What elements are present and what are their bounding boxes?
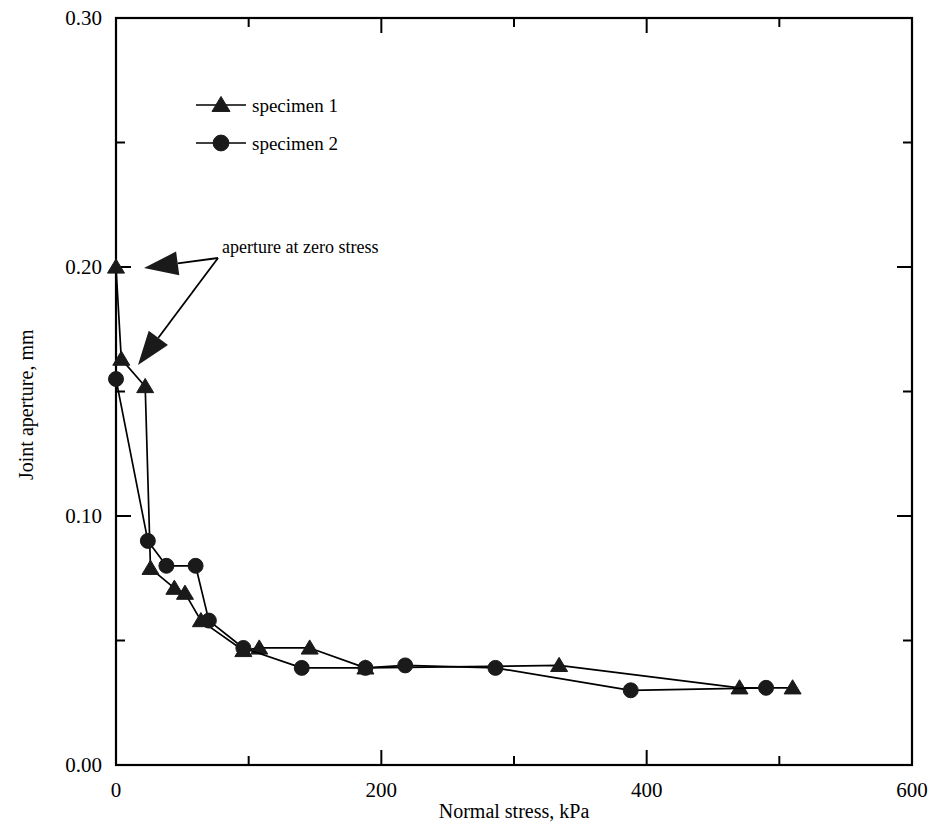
data-point-circle-icon: [294, 660, 309, 675]
data-point-circle-icon: [358, 660, 373, 675]
x-tick-label: 600: [896, 778, 928, 802]
series-1: [108, 259, 802, 694]
annotation-arrow-head: [138, 331, 168, 365]
data-point-triangle-icon: [301, 640, 318, 654]
series-2: [109, 372, 774, 698]
data-point-circle-icon: [759, 680, 774, 695]
joint-aperture-vs-normal-stress-chart: 0.000.100.200.30 0200400600 Joint apertu…: [0, 0, 936, 822]
y-tick-label: 0.00: [65, 753, 102, 777]
annotation-arrow-shaft: [178, 258, 218, 263]
data-point-circle-icon: [188, 558, 203, 573]
y-axis-ticks: [116, 18, 912, 765]
legend-label: specimen 1: [252, 95, 338, 116]
legend-entry-2: specimen 2: [196, 133, 338, 154]
x-axis-tick-labels: 0200400600: [111, 778, 928, 802]
data-point-circle-icon: [159, 558, 174, 573]
y-axis-title: Joint aperture, mm: [15, 329, 38, 480]
y-tick-label: 0.20: [65, 255, 102, 279]
x-axis-title: Normal stress, kPa: [439, 800, 590, 822]
y-axis-tick-labels: 0.000.100.200.30: [65, 6, 102, 777]
data-point-circle-icon: [236, 640, 251, 655]
series-line: [116, 379, 766, 690]
y-tick-label: 0.30: [65, 6, 102, 30]
legend-entry-1: specimen 1: [196, 95, 338, 116]
data-point-triangle-icon: [784, 680, 801, 694]
data-point-triangle-icon: [551, 657, 568, 671]
annotation-label: aperture at zero stress: [222, 237, 378, 257]
data-point-triangle-icon: [142, 560, 159, 574]
chart-legend: specimen 1specimen 2: [196, 95, 338, 154]
annotation-arrow-head: [144, 252, 179, 276]
x-tick-label: 0: [111, 778, 122, 802]
x-tick-label: 200: [366, 778, 398, 802]
data-point-circle-icon: [488, 660, 503, 675]
chart-figure: 0.000.100.200.30 0200400600 Joint apertu…: [0, 0, 936, 822]
data-point-circle-icon: [623, 683, 638, 698]
data-series-layer: [108, 259, 802, 698]
x-axis-ticks: [116, 18, 912, 765]
legend-circle-icon: [213, 135, 229, 151]
data-point-circle-icon: [201, 613, 216, 628]
data-point-circle-icon: [109, 372, 124, 387]
legend-triangle-icon: [212, 96, 230, 111]
annotation-layer: aperture at zero stress: [138, 237, 378, 365]
plot-frame: [116, 18, 912, 765]
legend-label: specimen 2: [252, 133, 338, 154]
data-point-circle-icon: [398, 658, 413, 673]
y-tick-label: 0.10: [65, 504, 102, 528]
x-tick-label: 400: [631, 778, 663, 802]
data-point-circle-icon: [140, 533, 155, 548]
series-line: [116, 267, 793, 688]
